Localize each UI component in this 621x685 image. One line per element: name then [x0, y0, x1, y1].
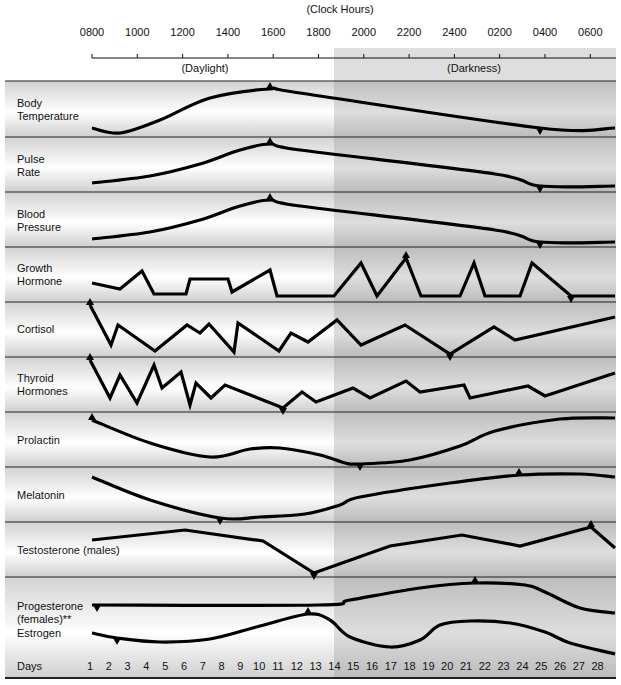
- clock-tick-label: 1000: [125, 26, 149, 38]
- clock-tick-label: 1400: [216, 26, 240, 38]
- row-label-body-temperature: BodyTemperature: [17, 97, 79, 123]
- circadian-chart: [0, 0, 621, 685]
- day-tick-label: 11: [272, 660, 283, 672]
- day-tick-label: 22: [479, 660, 491, 672]
- day-tick-label: 3: [125, 660, 131, 672]
- row-label-progesterone-females: Progesterone(females)**: [17, 600, 83, 626]
- day-tick-label: 8: [219, 660, 225, 672]
- clock-tick-label: 2200: [397, 26, 421, 38]
- day-tick-label: 18: [403, 660, 415, 672]
- clock-tick-label: 1800: [306, 26, 330, 38]
- day-tick-label: 21: [460, 660, 472, 672]
- day-tick-label: 24: [516, 660, 528, 672]
- day-tick-label: 17: [385, 660, 397, 672]
- day-tick-label: 20: [441, 660, 453, 672]
- row-label-testosterone-males: Testosterone (males): [17, 544, 120, 557]
- clock-tick-label: 0800: [80, 26, 104, 38]
- darkness-label: (Darkness): [447, 62, 501, 74]
- row-label-thyroid-hormones: ThyroidHormones: [17, 372, 68, 398]
- day-tick-label: 13: [309, 660, 321, 672]
- clock-tick-label: 0200: [487, 26, 511, 38]
- day-tick-label: 10: [253, 660, 265, 672]
- clock-hours-title: (Clock Hours): [306, 3, 373, 15]
- day-tick-label: 7: [200, 660, 206, 672]
- row-label-pulse-rate: PulseRate: [17, 153, 45, 179]
- day-tick-label: 1: [87, 660, 93, 672]
- clock-tick-label: 2400: [442, 26, 466, 38]
- days-label: Days: [17, 660, 42, 673]
- day-tick-label: 23: [497, 660, 509, 672]
- row-label-melatonin: Melatonin: [17, 489, 65, 502]
- day-tick-label: 6: [181, 660, 187, 672]
- day-tick-label: 14: [328, 660, 340, 672]
- row-label-blood-pressure: BloodPressure: [17, 208, 61, 234]
- day-tick-label: 25: [535, 660, 547, 672]
- day-tick-label: 5: [162, 660, 168, 672]
- day-tick-label: 4: [143, 660, 149, 672]
- clock-tick-label: 0400: [533, 26, 557, 38]
- clock-tick-label: 2000: [352, 26, 376, 38]
- day-tick-label: 9: [237, 660, 243, 672]
- row-label-cortisol: Cortisol: [17, 323, 54, 336]
- row-label-estrogen: Estrogen: [17, 627, 61, 640]
- day-tick-label: 19: [422, 660, 434, 672]
- day-tick-label: 28: [591, 660, 603, 672]
- daylight-label: (Daylight): [181, 62, 228, 74]
- row-label-growth-hormone: GrowthHormone: [17, 262, 62, 288]
- day-tick-label: 15: [347, 660, 359, 672]
- day-tick-label: 27: [573, 660, 585, 672]
- clock-tick-label: 1200: [170, 26, 194, 38]
- day-tick-label: 2: [106, 660, 112, 672]
- clock-tick-label: 0600: [578, 26, 602, 38]
- clock-tick-label: 1600: [261, 26, 285, 38]
- row-label-prolactin: Prolactin: [17, 434, 60, 447]
- day-tick-label: 16: [366, 660, 378, 672]
- day-tick-label: 12: [291, 660, 303, 672]
- day-tick-label: 26: [554, 660, 566, 672]
